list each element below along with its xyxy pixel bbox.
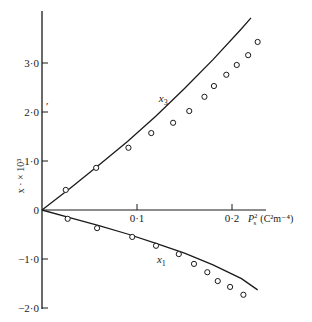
point-x3 xyxy=(202,94,207,99)
fitted-curves xyxy=(42,18,258,290)
point-x1 xyxy=(65,216,70,221)
y-tick-label: −2·0 xyxy=(18,302,39,314)
point-x1 xyxy=(130,234,135,239)
point-x3 xyxy=(126,145,131,150)
stray-mark: ′ xyxy=(46,100,48,112)
point-x3 xyxy=(234,62,239,67)
curve-x3 xyxy=(42,18,251,210)
point-x3 xyxy=(255,39,260,44)
x-tick-label: 0·1 xyxy=(130,212,145,224)
point-x3 xyxy=(94,165,99,170)
chart: 3·02·01·00−1·0−2·00·10·2P2s(C²m⁻⁴)x · × … xyxy=(0,0,312,322)
label-x3: x3 xyxy=(158,92,168,107)
point-x3 xyxy=(211,83,216,88)
point-x1 xyxy=(191,261,196,266)
point-x3 xyxy=(224,72,229,77)
label-x1: x1 xyxy=(156,253,166,268)
y-axis-title: x · × 10³ xyxy=(15,159,26,193)
point-x1 xyxy=(205,270,210,275)
point-x1 xyxy=(215,278,220,283)
series-labels: x3x1 xyxy=(156,92,168,268)
point-x1 xyxy=(228,284,233,289)
point-x1 xyxy=(95,226,100,231)
point-x3 xyxy=(149,130,154,135)
y-tick-label: 2·0 xyxy=(24,106,39,118)
y-tick-label: 0 xyxy=(34,204,40,216)
point-x3 xyxy=(187,108,192,113)
point-x3 xyxy=(246,53,251,58)
y-tick-label: 3·0 xyxy=(24,57,39,69)
point-x3 xyxy=(171,120,176,125)
x-axis-title: P2s(C²m⁻⁴) xyxy=(247,212,293,227)
axes: 3·02·01·00−1·0−2·00·10·2P2s(C²m⁻⁴)x · × … xyxy=(15,11,293,314)
point-x1 xyxy=(153,243,158,248)
point-x1 xyxy=(241,292,246,297)
point-x1 xyxy=(176,252,181,257)
point-x3 xyxy=(63,187,68,192)
y-tick-label: −1·0 xyxy=(18,253,39,265)
y-tick-label: 1·0 xyxy=(24,155,39,167)
x-tick-label: 0·2 xyxy=(225,212,240,224)
